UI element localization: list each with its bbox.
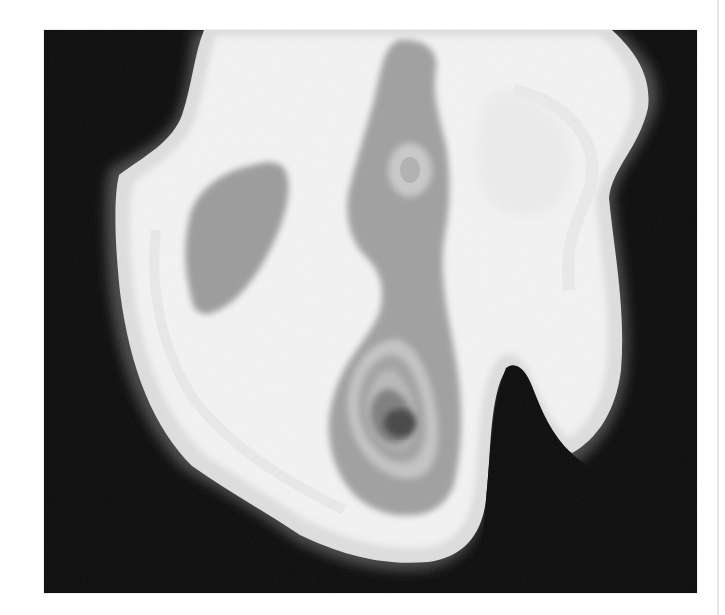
page xyxy=(0,0,725,615)
density-contour-graphic xyxy=(44,30,697,593)
density-image xyxy=(44,30,697,593)
page-edge-rule xyxy=(717,0,719,615)
